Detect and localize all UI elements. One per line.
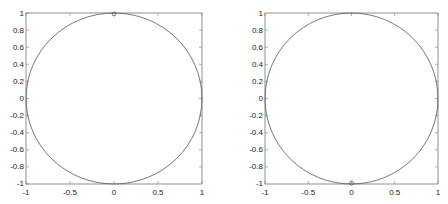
y-tick-labels: 1 0.8 0.6 0.4 0.2 0 -0.2 -0.4 -0.6 -0.8 … [10, 9, 24, 188]
svg-text:0.6: 0.6 [13, 43, 25, 52]
svg-text:0.5: 0.5 [389, 188, 401, 197]
svg-text:-1: -1 [17, 179, 25, 188]
svg-text:1: 1 [200, 188, 205, 197]
axes-frame [26, 13, 202, 184]
svg-text:0.2: 0.2 [13, 77, 25, 86]
svg-text:-0.4: -0.4 [10, 128, 24, 137]
svg-text:-0.5: -0.5 [301, 188, 315, 197]
svg-text:-0.4: -0.4 [249, 128, 263, 137]
unit-circle [265, 13, 438, 184]
svg-text:1: 1 [20, 9, 25, 18]
svg-text:0.4: 0.4 [252, 60, 264, 69]
y-tick-labels: 1 0.8 0.6 0.4 0.2 0 -0.2 -0.4 -0.6 -0.8 … [249, 9, 263, 188]
svg-text:-0.8: -0.8 [10, 162, 24, 171]
x-tick-labels: -1 -0.5 0 0.5 1 [22, 188, 204, 197]
svg-text:1: 1 [259, 9, 264, 18]
svg-text:0: 0 [349, 188, 354, 197]
svg-text:0.8: 0.8 [13, 26, 25, 35]
svg-text:0.6: 0.6 [252, 43, 264, 52]
right-circle-plot: 1 0.8 0.6 0.4 0.2 0 -0.2 -0.4 -0.6 -0.8 … [224, 0, 448, 204]
svg-text:0.4: 0.4 [13, 60, 25, 69]
svg-text:0.8: 0.8 [252, 26, 264, 35]
svg-text:-1: -1 [22, 188, 30, 197]
y-ticks [265, 30, 438, 167]
svg-text:-0.2: -0.2 [10, 111, 24, 120]
axes-frame [265, 13, 438, 184]
svg-text:-0.2: -0.2 [249, 111, 263, 120]
unit-circle [26, 13, 202, 184]
x-tick-labels: -1 -0.5 0 0.5 1 [261, 188, 440, 197]
x-ticks [26, 13, 202, 184]
svg-text:0: 0 [112, 188, 117, 197]
y-ticks [26, 13, 202, 184]
svg-text:-1: -1 [261, 188, 269, 197]
svg-text:0: 0 [20, 94, 25, 103]
left-circle-plot: 1 0.8 0.6 0.4 0.2 0 -0.2 -0.4 -0.6 -0.8 … [0, 0, 224, 204]
x-ticks [265, 13, 438, 184]
svg-text:1: 1 [436, 188, 441, 197]
svg-text:0: 0 [259, 94, 264, 103]
svg-text:-0.5: -0.5 [63, 188, 77, 197]
svg-text:0.2: 0.2 [252, 77, 264, 86]
svg-text:-1: -1 [256, 179, 264, 188]
svg-text:-0.6: -0.6 [10, 145, 24, 154]
svg-text:-0.8: -0.8 [249, 162, 263, 171]
svg-text:-0.6: -0.6 [249, 145, 263, 154]
svg-text:0.5: 0.5 [152, 188, 164, 197]
